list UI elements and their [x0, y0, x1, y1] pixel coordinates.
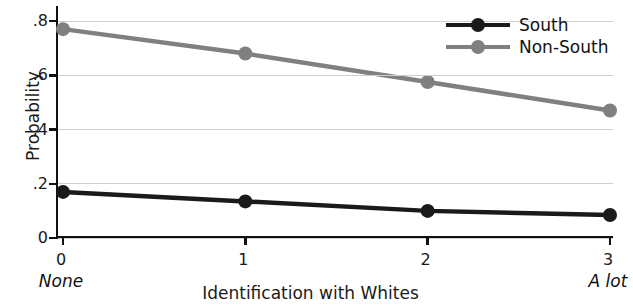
data-point-marker — [238, 194, 252, 208]
y-tick-label: .6 — [18, 67, 48, 83]
y-tick-label: .4 — [18, 122, 48, 138]
x-tick-label: 1 — [223, 252, 263, 268]
y-tick-label: .8 — [18, 13, 48, 29]
data-point-marker — [421, 75, 435, 89]
y-tick-mark — [49, 74, 58, 77]
legend-marker-icon — [446, 16, 510, 34]
data-point-marker — [56, 22, 70, 36]
y-tick-mark — [49, 128, 58, 131]
x-tick-mark — [62, 236, 65, 245]
legend-label: Non-South — [510, 38, 608, 56]
y-tick-mark — [49, 20, 58, 23]
y-tick-mark — [49, 237, 58, 240]
data-point-marker — [238, 47, 252, 61]
x-tick-label: 0 — [41, 252, 81, 268]
gridline — [58, 238, 613, 239]
y-tick-label: 0 — [18, 230, 48, 246]
x-tick-mark — [426, 236, 429, 245]
legend: SouthNon-South — [446, 14, 616, 58]
gridline — [58, 75, 613, 76]
series-line-south — [63, 192, 610, 215]
data-point-marker — [56, 185, 70, 199]
legend-item: South — [446, 14, 616, 36]
data-point-marker — [421, 204, 435, 218]
x-axis-title: Identification with Whites — [0, 283, 621, 303]
data-point-marker — [603, 104, 617, 118]
legend-label: South — [510, 16, 568, 34]
x-tick-mark — [609, 236, 612, 245]
x-tick-label: 3 — [588, 252, 628, 268]
y-tick-mark — [49, 183, 58, 186]
legend-marker-icon — [446, 38, 510, 56]
x-tick-label: 2 — [406, 252, 446, 268]
y-tick-label: .2 — [18, 176, 48, 192]
gridline — [58, 183, 613, 184]
x-tick-mark — [244, 236, 247, 245]
gridline — [58, 129, 613, 130]
legend-item: Non-South — [446, 36, 616, 58]
data-point-marker — [603, 208, 617, 222]
